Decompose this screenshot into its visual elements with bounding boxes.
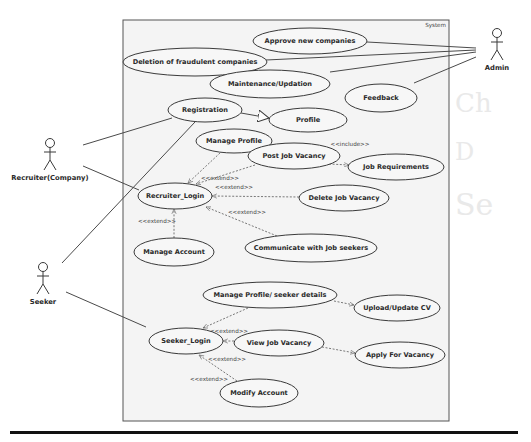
use-case-label: Approve new companies — [265, 37, 356, 45]
use-case-label: Profile — [296, 116, 321, 124]
stick-figure-icon — [37, 263, 49, 295]
use-case-feedback[interactable]: Feedback — [345, 84, 417, 112]
actor-seeker[interactable]: Seeker — [30, 263, 57, 307]
use-case-label: Job Requirements — [362, 163, 429, 171]
page-rule — [10, 431, 518, 434]
use-case-label: Deletion of fraudulent companies — [133, 58, 258, 66]
use-case-label: View Job Vacancy — [247, 339, 312, 347]
use-case-label: Apply For Vacancy — [366, 351, 435, 359]
stereotype-label: <<extend>> — [208, 356, 246, 362]
stereotype-label: <<extend>> — [190, 376, 228, 382]
svg-text:Se: Se — [455, 187, 493, 222]
use-case-label: Recruiter_Login — [146, 192, 205, 200]
use-case-label: Modify Account — [230, 389, 288, 397]
use-case-maintenance[interactable]: Maintenance/Updation — [210, 70, 330, 98]
use-case-post-job[interactable]: Post Job Vacancy — [248, 143, 340, 169]
use-case-manage-account[interactable]: Manage Account — [134, 238, 214, 266]
actor-recruiter[interactable]: Recruiter(Company) — [11, 139, 88, 183]
use-case-label: Upload/Update CV — [363, 304, 431, 312]
stereotype-label: <<extend>> — [215, 184, 253, 190]
use-case-approve[interactable]: Approve new companies — [253, 28, 367, 54]
use-case-label: Communicate with Job seekers — [254, 244, 368, 252]
use-case-label: Seeker_Login — [161, 337, 211, 345]
use-case-job-req[interactable]: Job Requirements — [348, 154, 444, 180]
use-case-label: Post Job Vacancy — [262, 152, 326, 160]
background-watermark: Ch D Se — [455, 88, 493, 222]
use-case-label: Manage Profile — [206, 137, 262, 145]
actor-label: Recruiter(Company) — [11, 174, 88, 182]
use-case-modify-account[interactable]: Modify Account — [220, 379, 298, 407]
stereotype-label: <<extend>> — [228, 209, 266, 215]
use-case-upload-cv[interactable]: Upload/Update CV — [354, 295, 440, 321]
use-case-label: Maintenance/Updation — [228, 80, 312, 88]
use-case-label: Manage Profile/ seeker details — [214, 291, 327, 299]
actor-admin[interactable]: Admin — [485, 29, 510, 73]
stereotype-label: <<extend>> — [138, 218, 176, 224]
use-case-label: Manage Account — [143, 248, 205, 256]
actor-label: Admin — [485, 64, 510, 72]
use-case-diagram: Ch D Se System <<extend>><<include>><<ex… — [0, 0, 531, 442]
svg-text:Ch: Ch — [455, 88, 492, 118]
use-case-communicate[interactable]: Communicate with Job seekers — [245, 234, 377, 262]
use-case-view-job[interactable]: View Job Vacancy — [234, 330, 324, 356]
use-case-seeker-profile[interactable]: Manage Profile/ seeker details — [203, 282, 337, 308]
use-case-seeker-login[interactable]: Seeker_Login — [149, 328, 223, 354]
svg-text:D: D — [455, 138, 474, 166]
use-case-label: Registration — [182, 106, 228, 114]
system-label: System — [425, 22, 446, 29]
stereotype-label: <<include>> — [330, 141, 369, 147]
stick-figure-icon — [491, 29, 503, 61]
use-case-recruiter-login[interactable]: Recruiter_Login — [138, 183, 212, 209]
actor-label: Seeker — [30, 298, 57, 306]
stick-figure-icon — [44, 139, 56, 171]
use-case-label: Delete Job Vacancy — [308, 194, 380, 202]
use-case-profile[interactable]: Profile — [269, 108, 347, 132]
use-case-apply[interactable]: Apply For Vacancy — [355, 342, 445, 368]
use-case-label: Feedback — [363, 94, 399, 102]
use-case-registration[interactable]: Registration — [168, 98, 242, 122]
use-case-delete-job[interactable]: Delete Job Vacancy — [299, 185, 389, 211]
